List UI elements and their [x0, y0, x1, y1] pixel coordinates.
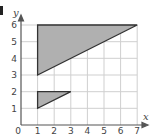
svg-text:6: 6	[11, 20, 17, 30]
svg-text:3: 3	[68, 126, 74, 136]
svg-text:2: 2	[51, 126, 57, 136]
svg-text:1: 1	[35, 126, 41, 136]
coordinate-grid: 0 1 2 3 4 5 6 7 1 2 3 4 5 6 x y	[0, 0, 156, 138]
svg-text:4: 4	[85, 126, 91, 136]
svg-text:1: 1	[11, 104, 17, 114]
y-axis-arrow-icon	[19, 15, 24, 21]
svg-text:0: 0	[15, 126, 21, 136]
svg-text:6: 6	[118, 126, 124, 136]
svg-text:5: 5	[101, 126, 107, 136]
x-axis-label: x	[143, 111, 149, 122]
svg-text:4: 4	[11, 54, 17, 64]
svg-text:7: 7	[134, 126, 140, 136]
y-tick-labels: 1 2 3 4 5 6	[11, 20, 17, 113]
svg-text:5: 5	[11, 37, 17, 47]
svg-text:3: 3	[11, 70, 17, 80]
x-tick-labels: 0 1 2 3 4 5 6 7	[15, 126, 140, 136]
svg-text:2: 2	[11, 87, 17, 97]
y-axis-label: y	[12, 7, 19, 18]
x-axis-arrow-icon	[142, 123, 148, 128]
